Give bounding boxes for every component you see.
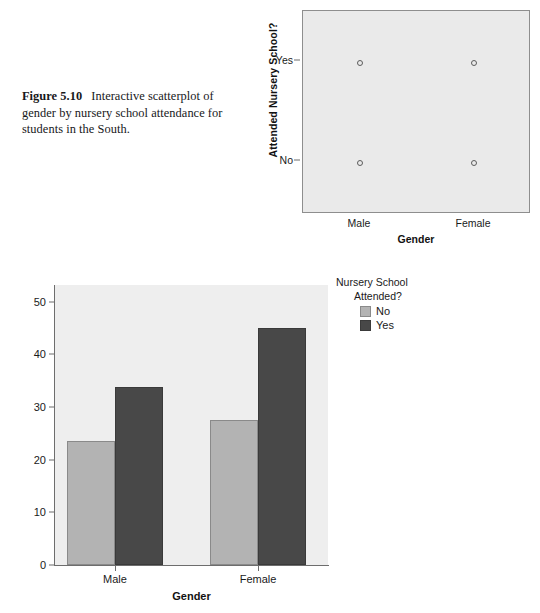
barchart-x-axis-ticks: Male Female [55, 566, 328, 588]
legend-label-no: No [376, 305, 390, 317]
barchart-xtickmark-female [258, 566, 259, 571]
barchart-ytick-40: 40 [34, 348, 46, 360]
scatterplot-xtick-male: Male [348, 217, 371, 229]
barchart-legend: Nursery School Attended? No Yes [336, 275, 466, 331]
legend-label-yes: Yes [376, 319, 394, 331]
legend-entry-yes[interactable]: Yes [336, 319, 466, 331]
scatterplot-xtick-female: Female [455, 217, 490, 229]
legend-title-line-1: Nursery School [336, 275, 466, 289]
legend-entry-no[interactable]: No [336, 305, 466, 317]
barchart-figure: Count 0 10 20 30 40 50 Male Female Gende… [0, 272, 540, 608]
bar-female-yes [258, 328, 306, 565]
barchart-x-axis-title: Gender [55, 590, 328, 602]
barchart-ytick-0: 0 [40, 559, 46, 571]
bar-male-yes [115, 387, 163, 565]
bar-female-no [210, 420, 258, 565]
barchart-xtick-female: Female [240, 573, 277, 585]
scatterplot-y-axis-ticks: Yes No [264, 8, 300, 213]
legend-title-line-2: Attended? [336, 289, 466, 303]
barchart-ytick-10: 10 [34, 506, 46, 518]
bar-male-no [67, 441, 115, 565]
scatter-point-female-no [471, 160, 477, 166]
scatter-point-female-yes [471, 60, 477, 66]
scatterplot-plot-area [302, 10, 530, 213]
legend-swatch-no-icon [360, 306, 371, 317]
barchart-xtickmark-male [115, 566, 116, 571]
barchart-ytick-50: 50 [34, 296, 46, 308]
barchart-y-axis-ticks: 0 10 20 30 40 50 [10, 291, 55, 565]
scatterplot-x-axis-ticks: Male Female [302, 217, 530, 233]
barchart-xtick-male: Male [103, 573, 127, 585]
figure-number: Figure 5.10 [22, 89, 82, 103]
barchart-plot-area [55, 285, 328, 565]
scatter-point-male-yes [357, 60, 363, 66]
scatterplot-ytickmark-no [294, 160, 300, 161]
legend-swatch-yes-icon [360, 320, 371, 331]
scatterplot-ytickmark-yes [294, 60, 300, 61]
scatterplot-figure: Attended Nursery School? Yes No Male Fem… [246, 8, 536, 240]
scatterplot-x-axis-title: Gender [302, 233, 530, 245]
scatterplot-ytick-yes: Yes [276, 54, 293, 66]
figure-caption: Figure 5.10Interactive scatterplot of ge… [22, 88, 232, 138]
scatter-point-male-no [357, 160, 363, 166]
barchart-ytick-30: 30 [34, 401, 46, 413]
scatterplot-ytick-no: No [280, 154, 293, 166]
barchart-ytick-20: 20 [34, 454, 46, 466]
